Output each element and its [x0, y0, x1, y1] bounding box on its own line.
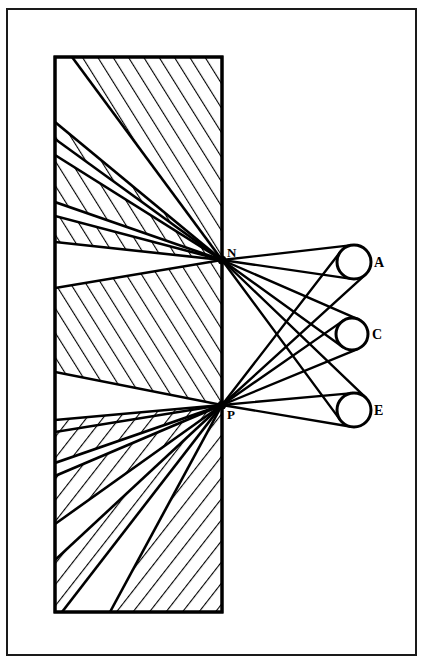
target-circles	[336, 245, 371, 427]
point-label-n: N	[227, 245, 237, 260]
hatched-medium-block	[55, 57, 222, 612]
point-p-dot	[218, 401, 227, 410]
figure-root: N P A C E	[0, 0, 424, 668]
point-n-dot	[218, 256, 227, 265]
circle-c[interactable]	[336, 318, 368, 350]
circle-label-c: C	[372, 327, 382, 342]
tangent-ray-n-a	[222, 245, 352, 260]
circle-e[interactable]	[337, 393, 371, 427]
point-label-p: P	[227, 407, 235, 422]
circle-a[interactable]	[337, 245, 371, 279]
circle-label-a: A	[374, 255, 385, 270]
circle-label-e: E	[374, 403, 383, 418]
tangent-ray-p-a	[222, 252, 341, 405]
optics-ray-diagram: N P A C E	[0, 0, 424, 668]
tangent-ray-p-e	[222, 393, 352, 405]
